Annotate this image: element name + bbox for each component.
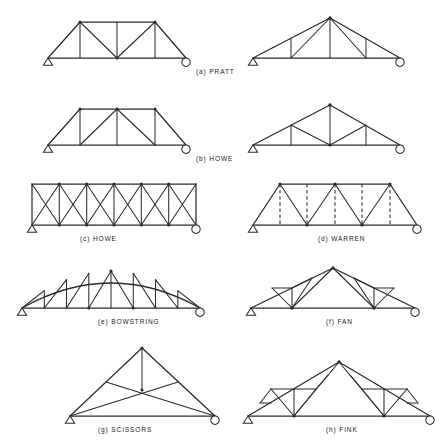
pratt-gabled-web-members	[291, 18, 366, 58]
howe-trap-support-right	[182, 145, 190, 153]
truss-diagram-sheet: (a) PRATT	[0, 0, 443, 445]
howe-parallel-verticals	[59, 184, 168, 225]
caption-bowstring: (e) BOWSTRING	[98, 318, 160, 326]
truss-fan	[246, 266, 419, 316]
truss-howe-parallel	[27, 183, 200, 234]
pratt-gabled-support-left	[248, 58, 257, 65]
fan-joints	[290, 266, 375, 309]
truss-pratt	[43, 21, 190, 67]
warren-support-left	[248, 225, 257, 232]
howe-gabled-chords	[253, 105, 400, 145]
truss-fink	[243, 360, 434, 424]
pratt-support-right	[182, 58, 190, 66]
truss-warren	[248, 182, 421, 233]
fink-support-right	[426, 416, 434, 424]
caption-fan: (f) FAN	[326, 318, 353, 326]
scissors-web-members	[70, 348, 215, 416]
scissors-support-left	[65, 416, 74, 423]
pratt-gabled-joints	[328, 16, 331, 19]
caption-howe-trapezoidal: (b) HOWE	[196, 155, 233, 163]
howe-gabled-web-members	[291, 105, 366, 145]
caption-fink: (h) FINK	[326, 426, 358, 434]
bowstring-web-members	[22, 271, 200, 308]
truss-howe-gabled	[248, 103, 404, 153]
howe-parallel-support-right	[192, 225, 200, 233]
howe-gabled-support-right	[396, 145, 404, 153]
truss-figure-container: (a) PRATT	[0, 0, 443, 445]
truss-pratt-gabled	[248, 16, 404, 66]
bowstring-support-right	[196, 308, 204, 316]
fink-web-members	[260, 362, 418, 416]
howe-trap-web-members	[80, 109, 155, 145]
truss-scissors	[65, 346, 219, 424]
scissors-support-right	[211, 416, 219, 424]
howe-parallel-support-left	[27, 225, 36, 232]
caption-scissors: (g) SCISSORS	[98, 426, 152, 434]
warren-support-right	[413, 225, 421, 233]
caption-pratt: (a) PRATT	[196, 68, 235, 76]
fan-support-right	[411, 308, 419, 316]
bowstring-support-left	[17, 308, 26, 315]
howe-gabled-support-left	[248, 145, 257, 152]
pratt-gabled-chords	[253, 18, 400, 58]
pratt-web-members	[80, 22, 155, 58]
warren-optional-verticals	[280, 184, 390, 225]
fan-support-left	[246, 308, 255, 315]
truss-howe-trapezoidal	[43, 108, 190, 154]
fan-web-members	[272, 268, 394, 308]
howe-trap-support-left	[43, 145, 52, 152]
truss-bowstring	[17, 269, 204, 316]
pratt-support-left	[43, 58, 52, 65]
caption-howe-parallel: (c) HOWE	[80, 235, 117, 243]
pratt-gabled-support-right	[396, 58, 404, 66]
fink-support-left	[243, 416, 252, 423]
caption-warren: (d) WARREN	[318, 235, 365, 243]
